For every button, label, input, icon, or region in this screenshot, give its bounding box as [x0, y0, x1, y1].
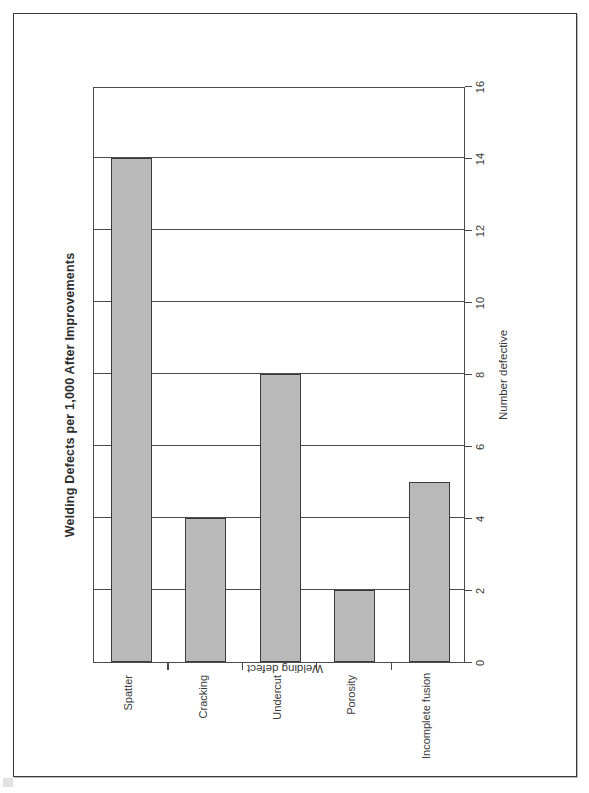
bar-row: [243, 86, 317, 662]
chart-title: Welding Defects per 1,000 After Improvem…: [63, 31, 77, 759]
bar-cracking[interactable]: [185, 518, 226, 662]
category-label-spatter: Spatter: [122, 675, 134, 759]
value-axis-label: 12: [474, 211, 486, 251]
value-axis-label: 0: [474, 643, 486, 683]
value-axis-tick: [465, 446, 472, 447]
bar-row: [168, 86, 242, 662]
category-label-undercut: Undercut: [271, 675, 283, 759]
value-axis-label: 10: [474, 283, 486, 323]
bar-undercut[interactable]: [260, 374, 301, 662]
value-axis-label: 16: [474, 67, 486, 107]
value-axis-tick: [465, 230, 472, 231]
page-frame: Welding Defects per 1,000 After Improvem…: [13, 13, 577, 777]
bar-row: [94, 86, 168, 662]
category-label-porosity: Porosity: [345, 675, 357, 759]
bar-spatter[interactable]: [111, 158, 152, 662]
value-axis-label: 6: [474, 427, 486, 467]
scan-artifact: [3, 778, 13, 787]
value-axis-label: 2: [474, 571, 486, 611]
bar-row: [392, 86, 466, 662]
value-axis-tick: [465, 158, 472, 159]
value-axis-title: Number defective: [497, 87, 509, 663]
bar-porosity[interactable]: [334, 590, 375, 662]
value-axis-label: 8: [474, 355, 486, 395]
value-axis-tick: [465, 86, 472, 87]
rotated-chart-container: Welding Defects per 1,000 After Improvem…: [45, 31, 545, 759]
value-axis-label: 14: [474, 139, 486, 179]
value-axis-tick: [465, 302, 472, 303]
bar-row: [317, 86, 391, 662]
value-axis-tick: [465, 590, 472, 591]
plot-area: [93, 87, 465, 663]
page: Welding Defects per 1,000 After Improvem…: [0, 0, 589, 793]
value-axis-tick: [465, 374, 472, 375]
bar-chart: Welding Defects per 1,000 After Improvem…: [45, 31, 545, 759]
value-axis-label: 4: [474, 499, 486, 539]
bar-incomplete-fusion[interactable]: [409, 482, 450, 662]
category-label-cracking: Cracking: [197, 675, 209, 759]
category-label-incomplete-fusion: Incomplete fusion: [420, 675, 432, 759]
category-axis-title: Welding defect: [99, 663, 471, 675]
value-axis-tick: [465, 518, 472, 519]
